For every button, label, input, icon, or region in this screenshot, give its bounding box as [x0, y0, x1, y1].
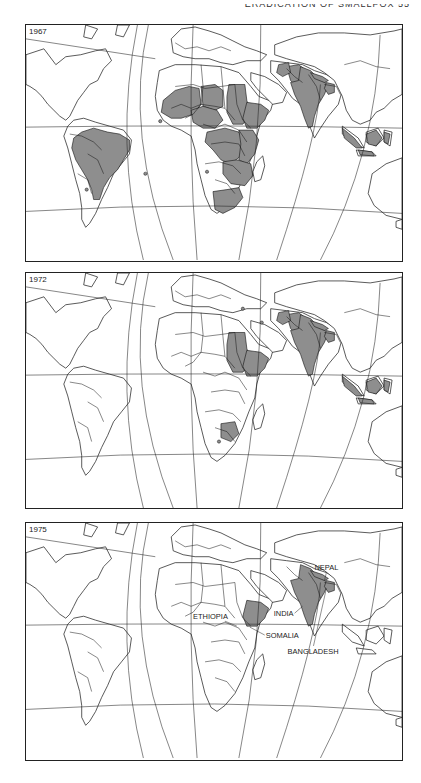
- endemic-sumatra: [342, 376, 362, 396]
- country-label-india: INDIA: [274, 609, 294, 618]
- landmass: [116, 523, 130, 535]
- case-marker: [260, 321, 263, 324]
- label-leader-line: [295, 606, 303, 613]
- country-label-nepal: NEPAL: [314, 563, 338, 572]
- landmass: [396, 467, 402, 477]
- year-label: 1975: [29, 525, 49, 534]
- case-marker: [144, 172, 147, 175]
- case-marker: [85, 188, 88, 191]
- case-marker: [241, 307, 244, 310]
- year-label: 1967: [29, 27, 49, 36]
- country-label-ethiopia: ETHIOPIA: [193, 612, 228, 621]
- landmass: [116, 25, 130, 37]
- country-label-somalia: SOMALIA: [266, 631, 299, 640]
- country-label-bangladesh: BANGLADESH: [288, 647, 339, 656]
- endemic-java: [358, 398, 374, 404]
- world-map: [26, 273, 402, 508]
- landmass: [396, 219, 402, 229]
- case-marker: [159, 120, 162, 123]
- landmass: [396, 717, 402, 727]
- landmass: [366, 626, 384, 644]
- world-map: NEPALINDIAETHIOPIASOMALIABANGLADESH: [26, 523, 402, 760]
- landmass: [171, 27, 266, 65]
- endemic-sumatra: [342, 128, 362, 148]
- landmass: [116, 273, 130, 285]
- landmass: [26, 547, 112, 618]
- world-map: [26, 25, 402, 261]
- landmass: [171, 525, 266, 563]
- map-panel-1967: 1967: [25, 24, 403, 262]
- landmass: [84, 25, 98, 39]
- landmass: [356, 648, 376, 654]
- landmass: [26, 49, 112, 120]
- landmass: [368, 406, 402, 467]
- case-marker: [205, 170, 208, 173]
- case-marker: [217, 440, 220, 443]
- landmass: [384, 628, 392, 644]
- landmass: [84, 273, 98, 287]
- landmass: [84, 523, 98, 537]
- year-label: 1972: [29, 275, 49, 284]
- graticule-line: [140, 273, 173, 508]
- endemic-south-africa: [213, 188, 243, 214]
- map-panel-1972: 1972: [25, 272, 403, 509]
- landmass: [368, 158, 402, 219]
- running-head: ERADICATION OF SMALLPOX 55: [200, 0, 410, 8]
- landmass: [26, 297, 112, 368]
- landmass: [342, 624, 364, 646]
- graticule-line: [140, 25, 173, 260]
- map-panel-1975: 1975NEPALINDIAETHIOPIASOMALIABANGLADESH: [25, 522, 403, 761]
- endemic-java: [358, 150, 374, 156]
- landmass: [368, 656, 402, 717]
- landmass: [171, 275, 266, 313]
- graticule-line: [140, 523, 173, 758]
